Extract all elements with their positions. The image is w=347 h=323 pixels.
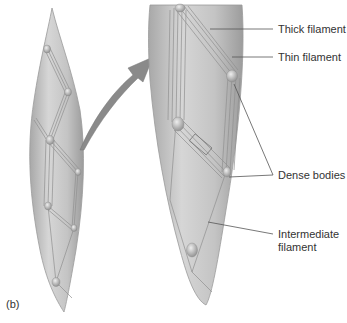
label-intermediate-filament-line2: filament (278, 241, 317, 253)
small-muscle-cell (30, 8, 84, 312)
label-intermediate-filament-line1: Intermediate (278, 228, 339, 240)
label-thick-filament: Thick filament (278, 23, 346, 35)
zoom-arrow (80, 57, 153, 150)
label-thin-filament: Thin filament (278, 51, 341, 63)
smooth-muscle-diagram (0, 0, 347, 323)
large-muscle-cell (149, 4, 244, 305)
panel-label: (b) (6, 298, 19, 310)
label-dense-bodies: Dense bodies (278, 169, 345, 181)
